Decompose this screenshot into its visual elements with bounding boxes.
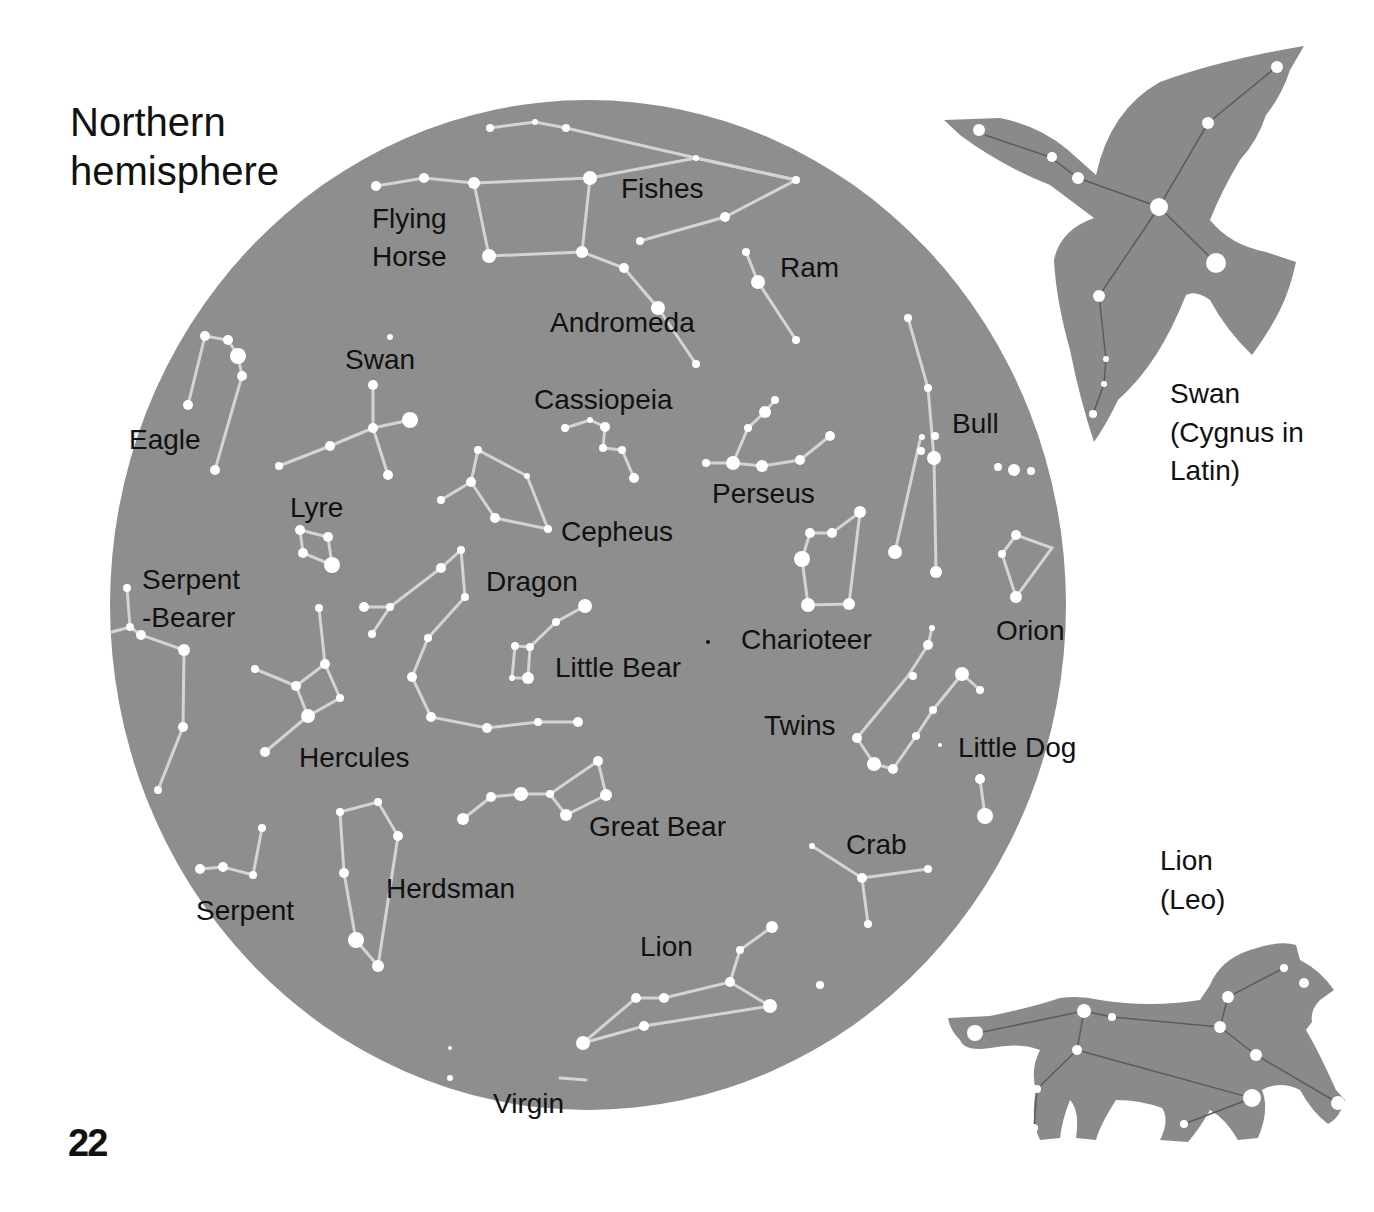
label-hercules: Hercules bbox=[299, 742, 409, 773]
label-swan: Swan bbox=[345, 344, 415, 375]
label-virgin: Virgin bbox=[493, 1088, 564, 1119]
lion-inset-line1: Lion bbox=[1160, 845, 1213, 876]
label-crab: Crab bbox=[846, 829, 907, 860]
label-dragon: Dragon bbox=[486, 566, 578, 597]
label-flying-horse-1: Flying bbox=[372, 203, 447, 234]
label-andromeda: Andromeda bbox=[550, 307, 695, 338]
label-little-dog: Little Dog bbox=[958, 732, 1076, 763]
swan-inset-line3: Latin) bbox=[1170, 455, 1240, 486]
label-orion: Orion bbox=[996, 615, 1064, 646]
label-herdsman: Herdsman bbox=[386, 873, 515, 904]
page-number: 22 bbox=[68, 1122, 106, 1165]
lion-inset-line2: (Leo) bbox=[1160, 884, 1225, 915]
star-chart-illustration: Flying Horse Fishes Ram Andromeda Swan C… bbox=[0, 0, 1374, 1212]
label-fishes: Fishes bbox=[621, 173, 703, 204]
swan-inset-line2: (Cygnus in bbox=[1170, 417, 1304, 448]
swan-inset-line1: Swan bbox=[1170, 378, 1240, 409]
label-great-bear: Great Bear bbox=[589, 811, 726, 842]
label-flying-horse-2: Horse bbox=[372, 241, 447, 272]
label-charioteer: Charioteer bbox=[741, 624, 872, 655]
label-eagle: Eagle bbox=[129, 424, 201, 455]
label-perseus: Perseus bbox=[712, 478, 815, 509]
label-cepheus: Cepheus bbox=[561, 516, 673, 547]
lion-silhouette bbox=[948, 943, 1345, 1142]
label-serpent-bearer-1: Serpent bbox=[142, 564, 240, 595]
label-serpent-bearer-2: -Bearer bbox=[142, 602, 235, 633]
label-lyre: Lyre bbox=[290, 492, 343, 523]
label-ram: Ram bbox=[780, 252, 839, 283]
label-cassiopeia: Cassiopeia bbox=[534, 384, 673, 415]
label-serpent: Serpent bbox=[196, 895, 294, 926]
label-little-bear: Little Bear bbox=[555, 652, 681, 683]
label-twins: Twins bbox=[764, 710, 836, 741]
label-bull: Bull bbox=[952, 408, 999, 439]
label-lion: Lion bbox=[640, 931, 693, 962]
